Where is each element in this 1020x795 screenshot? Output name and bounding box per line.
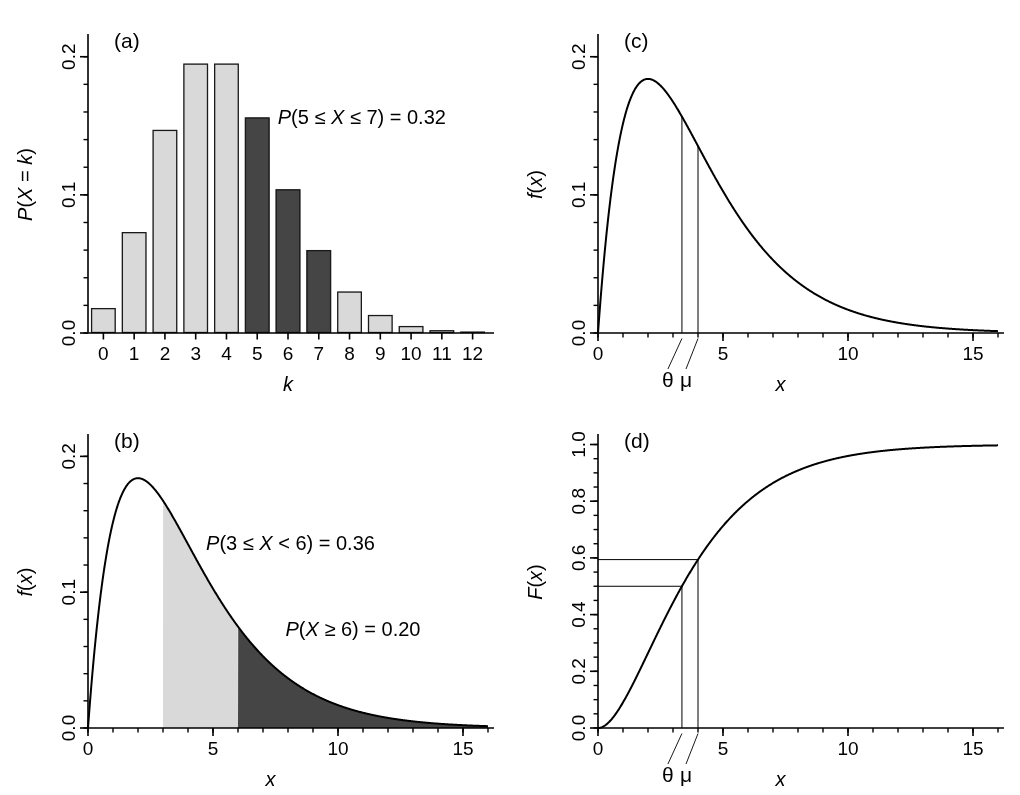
chart-canvas-d [510, 400, 1020, 795]
figure-container [0, 0, 1020, 795]
chart-canvas-a [0, 0, 510, 400]
chart-canvas-b [0, 400, 510, 795]
chart-panel-d [510, 400, 1020, 795]
chart-panel-c [510, 0, 1020, 400]
chart-panel-a [0, 0, 510, 400]
chart-panel-b [0, 400, 510, 795]
chart-canvas-c [510, 0, 1020, 400]
